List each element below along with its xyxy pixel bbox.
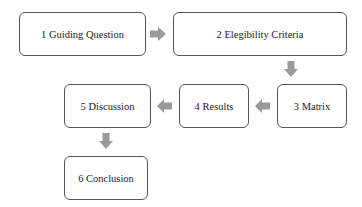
step-label: 6 Conclusion — [78, 173, 134, 184]
step-label: 3 Matrix — [294, 101, 330, 112]
step-results: 4 Results — [179, 84, 249, 128]
arrow-left-icon — [255, 99, 270, 113]
step-guiding-question: 1 Guiding Question — [19, 12, 146, 56]
step-label: 4 Results — [195, 101, 234, 112]
step-conclusion: 6 Conclusion — [64, 156, 148, 200]
step-label: 5 Discussion — [81, 101, 135, 112]
step-label: 2 Elegibility Criteria — [217, 29, 304, 40]
arrow-down-icon — [284, 61, 298, 77]
arrow-left-icon — [157, 99, 172, 113]
arrow-right-icon — [150, 27, 166, 41]
step-discussion: 5 Discussion — [64, 84, 151, 128]
arrow-down-icon — [99, 133, 113, 149]
step-elegibility-criteria: 2 Elegibility Criteria — [173, 12, 347, 56]
step-label: 1 Guiding Question — [41, 29, 124, 40]
step-matrix: 3 Matrix — [277, 84, 347, 128]
